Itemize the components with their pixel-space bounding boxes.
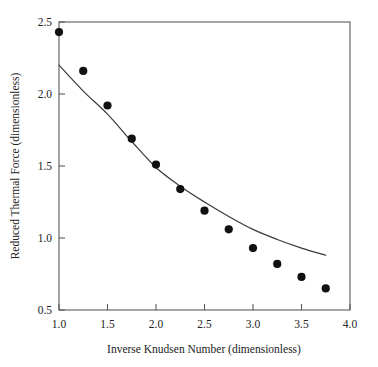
data-point	[297, 273, 305, 281]
x-tick-label-4-0: 4.0	[343, 318, 358, 330]
x-tick-label-3-5: 3.5	[294, 318, 309, 330]
x-tick-label-2-5: 2.5	[197, 318, 212, 330]
data-point	[103, 101, 111, 109]
data-point	[79, 67, 87, 75]
chart-figure: 2.5 2.0 1.5 1.0 0.5 1.0 1.5 2.0 2.5 3.0 …	[0, 0, 378, 367]
data-point	[249, 244, 257, 252]
data-point	[225, 225, 233, 233]
x-tick-label-3-0: 3.0	[246, 318, 261, 330]
y-tick-label-1-0: 1.0	[38, 232, 53, 244]
x-tick-label-1-0: 1.0	[52, 318, 67, 330]
data-point	[55, 28, 63, 36]
y-tick-label-0-5: 0.5	[38, 304, 53, 316]
data-point	[200, 207, 208, 215]
data-point	[152, 160, 160, 168]
x-axis-title: Inverse Knudsen Number (dimensionless)	[107, 343, 301, 356]
data-point	[322, 284, 330, 292]
plot-background	[0, 0, 378, 367]
data-point	[128, 135, 136, 143]
y-tick-label-2-5: 2.5	[38, 16, 53, 28]
scatter-plot: 2.5 2.0 1.5 1.0 0.5 1.0 1.5 2.0 2.5 3.0 …	[0, 0, 378, 367]
y-tick-label-2-0: 2.0	[38, 88, 53, 100]
data-point	[176, 185, 184, 193]
x-tick-label-1-5: 1.5	[100, 318, 115, 330]
y-tick-label-1-5: 1.5	[38, 160, 53, 172]
y-axis-title: Reduced Thermal Force (dimensionless)	[9, 73, 22, 260]
data-point	[273, 260, 281, 268]
x-tick-label-2-0: 2.0	[149, 318, 164, 330]
